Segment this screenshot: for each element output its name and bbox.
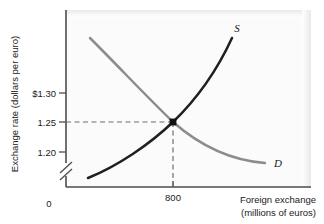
x-axis-title-line1: Foreign exchange [240, 194, 316, 205]
exchange-rate-supply-demand-figure: $1.30 1.25 1.20 0 800 S D Exchange rate … [0, 0, 324, 224]
origin-label: 0 [46, 198, 51, 209]
plot-right-shade [302, 10, 311, 188]
x-axis-title-line2: (millions of euros) [241, 207, 316, 218]
supply-curve-label: S [234, 22, 240, 34]
chart-svg: $1.30 1.25 1.20 0 800 S D Exchange rate … [0, 0, 324, 224]
demand-curve-label: D [273, 157, 282, 169]
y-axis-title: Exchange rate (dollars per euro) [9, 36, 20, 172]
plot-top-shade [66, 10, 311, 17]
y-tick-label-1-25: 1.25 [38, 117, 57, 128]
y-tick-label-1-20: 1.20 [38, 147, 57, 158]
equilibrium-point-marker [170, 119, 177, 126]
y-tick-label-1-30: $1.30 [32, 88, 56, 99]
x-tick-label-800: 800 [165, 192, 181, 203]
